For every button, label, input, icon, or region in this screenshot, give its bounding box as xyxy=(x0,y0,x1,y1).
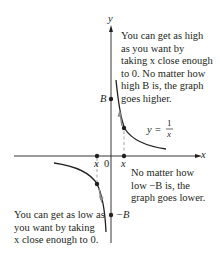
point-on-curve-positive xyxy=(122,126,126,130)
equation-denominator: x xyxy=(167,129,171,139)
annotation-no-matter-low: No matter how low −B is, the graph goes … xyxy=(131,167,205,205)
x-negative-label: x xyxy=(94,158,99,169)
origin-label: 0 xyxy=(104,158,109,169)
annotation-line: to 0. No matter how xyxy=(121,68,213,81)
annotation-line: goes higher. xyxy=(121,93,213,106)
annotation-line: graph goes lower. xyxy=(131,192,205,205)
annotation-line: taking x close enough xyxy=(121,55,213,68)
annotation-line: You can get as low as xyxy=(14,209,105,222)
point-on-curve-negative xyxy=(95,182,99,186)
annotation-line: No matter how xyxy=(131,167,205,180)
point-neg-B xyxy=(109,213,113,217)
annotation-high: You can get as high as you want by takin… xyxy=(121,30,213,106)
y-axis-label: y xyxy=(108,13,113,24)
neg-B-label: −B xyxy=(116,209,130,220)
annotation-line: high B is, the graph xyxy=(121,80,213,93)
annotation-line: you want by taking xyxy=(14,222,105,235)
x-positive-label: x xyxy=(121,158,126,169)
annotation-low: You can get as low as you want by taking… xyxy=(14,209,105,247)
annotation-line: low −B is, the xyxy=(131,180,205,193)
y-axis-arrow-icon xyxy=(109,25,113,32)
upward-arrow-icon xyxy=(118,110,123,117)
x-axis-label: x xyxy=(201,149,206,160)
equation-lhs: y = xyxy=(147,124,161,135)
annotation-line: x close enough to 0. xyxy=(14,234,105,247)
annotation-line: as you want by xyxy=(121,43,213,56)
point-B xyxy=(109,97,113,101)
annotation-line: You can get as high xyxy=(121,30,213,43)
equation-numerator: 1 xyxy=(167,118,172,128)
B-label: B xyxy=(100,93,106,104)
